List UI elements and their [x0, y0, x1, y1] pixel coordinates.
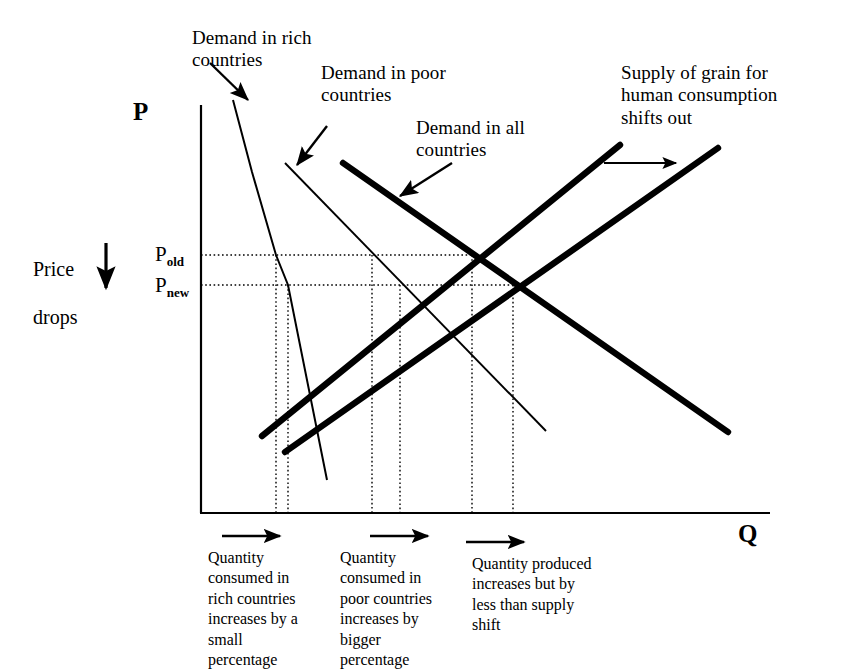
callout-demand-rich: Demand in rich countries — [192, 27, 312, 72]
arrow-to-demand-all — [400, 163, 452, 196]
curve-supply-shifted — [285, 148, 718, 452]
quantity-droplines — [276, 255, 513, 513]
arrow-to-demand-poor — [297, 126, 327, 165]
curve-demand-all — [343, 163, 728, 432]
price-label-old: Pold — [155, 242, 184, 267]
callout-supply-shift: Supply of grain for human consumption sh… — [621, 62, 777, 129]
price-label-new: Pnew — [155, 273, 189, 298]
y-axis-label: P — [133, 97, 148, 127]
callout-demand-poor: Demand in poor countries — [321, 62, 446, 107]
callout-demand-all: Demand in all countries — [416, 117, 525, 162]
bottom-arrows — [222, 536, 524, 542]
price-drops-line1: Price — [33, 257, 77, 281]
price-drops-line2: drops — [33, 305, 77, 329]
bottom-note-rich: Quantity consumed in rich countries incr… — [208, 548, 340, 671]
price-label-new-sub: new — [167, 285, 189, 300]
price-label-old-base: P — [155, 242, 167, 266]
bottom-note-produced: Quantity produced increases but by less … — [472, 554, 612, 636]
price-label-old-sub: old — [167, 254, 184, 269]
bottom-note-poor: Quantity consumed in poor countries incr… — [340, 548, 472, 671]
curve-supply-original — [262, 145, 620, 436]
price-label-new-base: P — [155, 273, 167, 297]
price-drops-note: Price drops — [33, 233, 77, 353]
x-axis-label: Q — [738, 519, 757, 549]
